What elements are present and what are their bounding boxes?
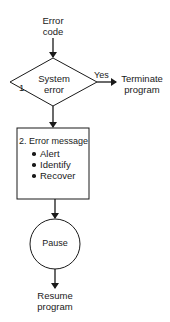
- process-content: 2. Error message Alert Identify Recover: [19, 136, 88, 181]
- start-line2: code: [38, 26, 68, 37]
- decision-line2: error: [36, 84, 72, 95]
- end-line2: program: [36, 301, 74, 312]
- start-line1: Error: [38, 15, 68, 26]
- terminate-line2: program: [119, 84, 165, 95]
- start-label: Error code: [38, 15, 68, 37]
- end-line1: Resume: [36, 290, 74, 301]
- terminate-label: Terminate program: [119, 73, 165, 95]
- process-item-alert: Alert: [31, 148, 88, 159]
- process-item-recover: Recover: [31, 170, 88, 181]
- end-label: Resume program: [36, 290, 74, 312]
- process-item-identify: Identify: [31, 159, 88, 170]
- pause-label: Pause: [35, 238, 75, 249]
- terminate-line1: Terminate: [119, 73, 165, 84]
- process-title: 2. Error message: [19, 136, 88, 147]
- decision-label: System error: [36, 73, 72, 95]
- yes-label: Yes: [94, 70, 109, 81]
- decision-line1: System: [36, 73, 72, 84]
- decision-number: 1.: [19, 82, 27, 93]
